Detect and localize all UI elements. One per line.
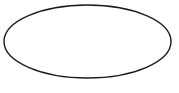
drawing-canvas xyxy=(0,0,179,93)
shape-drawing xyxy=(0,0,179,93)
ellipse-shape xyxy=(4,5,171,78)
